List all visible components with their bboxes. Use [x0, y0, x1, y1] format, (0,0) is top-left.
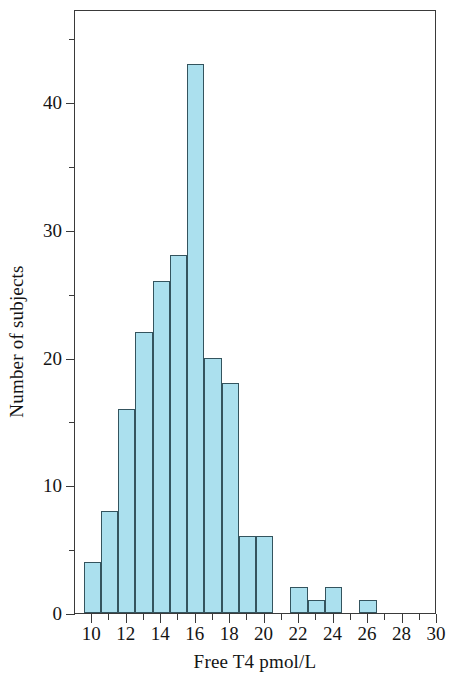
- x-tick-mark-minor: [177, 614, 178, 620]
- y-tick-mark-minor: [69, 295, 75, 296]
- y-tick-mark-minor: [69, 39, 75, 40]
- y-tick-mark-minor: [69, 550, 75, 551]
- histogram-bar: [135, 332, 152, 613]
- x-tick-mark: [91, 614, 92, 623]
- x-tick-mark-minor: [246, 614, 247, 620]
- histogram-bar: [204, 358, 221, 613]
- x-tick-mark-minor: [419, 614, 420, 620]
- histogram-figure: Number of subjects 010203040 10121416182…: [0, 0, 452, 683]
- y-tick-label: 20: [2, 349, 62, 368]
- histogram-bar: [290, 587, 307, 613]
- x-tick-mark: [160, 614, 161, 623]
- x-tick-mark: [195, 614, 196, 623]
- x-tick-mark-minor: [281, 614, 282, 620]
- x-axis-title: Free T4 pmol/L: [74, 651, 436, 673]
- x-tick-mark: [298, 614, 299, 623]
- x-tick-mark-minor: [350, 614, 351, 620]
- x-tick-mark: [402, 614, 403, 623]
- histogram-bar: [239, 536, 256, 613]
- y-tick-mark: [66, 359, 75, 360]
- y-tick-mark-minor: [69, 167, 75, 168]
- x-tick-mark-minor: [212, 614, 213, 620]
- histogram-bar: [359, 600, 376, 613]
- histogram-bar: [153, 281, 170, 613]
- y-tick-mark: [66, 103, 75, 104]
- histogram-bar: [118, 409, 135, 613]
- histogram-bar: [222, 383, 239, 613]
- x-tick-mark-minor: [384, 614, 385, 620]
- x-tick-mark: [436, 614, 437, 623]
- x-tick-mark: [264, 614, 265, 623]
- x-tick-label: 30: [406, 624, 452, 643]
- histogram-bar: [187, 64, 204, 613]
- x-tick-mark-minor: [108, 614, 109, 620]
- x-tick-mark: [333, 614, 334, 623]
- x-tick-mark: [367, 614, 368, 623]
- histogram-bar: [101, 511, 118, 613]
- y-tick-mark: [66, 231, 75, 232]
- x-tick-mark-minor: [143, 614, 144, 620]
- y-tick-mark: [66, 486, 75, 487]
- x-tick-mark-minor: [315, 614, 316, 620]
- y-tick-mark-minor: [69, 422, 75, 423]
- histogram-bar: [308, 600, 325, 613]
- y-tick-label: 10: [2, 476, 62, 495]
- x-tick-mark: [126, 614, 127, 623]
- histogram-bar: [325, 587, 342, 613]
- histogram-bar: [170, 255, 187, 613]
- plot-frame: [74, 10, 436, 614]
- y-tick-label: 40: [2, 93, 62, 112]
- histogram-bar: [256, 536, 273, 613]
- plot-area: [75, 11, 435, 613]
- histogram-bar: [84, 562, 101, 613]
- x-tick-mark: [229, 614, 230, 623]
- y-tick-mark: [66, 614, 75, 615]
- y-tick-label: 30: [2, 221, 62, 240]
- y-tick-label: 0: [2, 604, 62, 623]
